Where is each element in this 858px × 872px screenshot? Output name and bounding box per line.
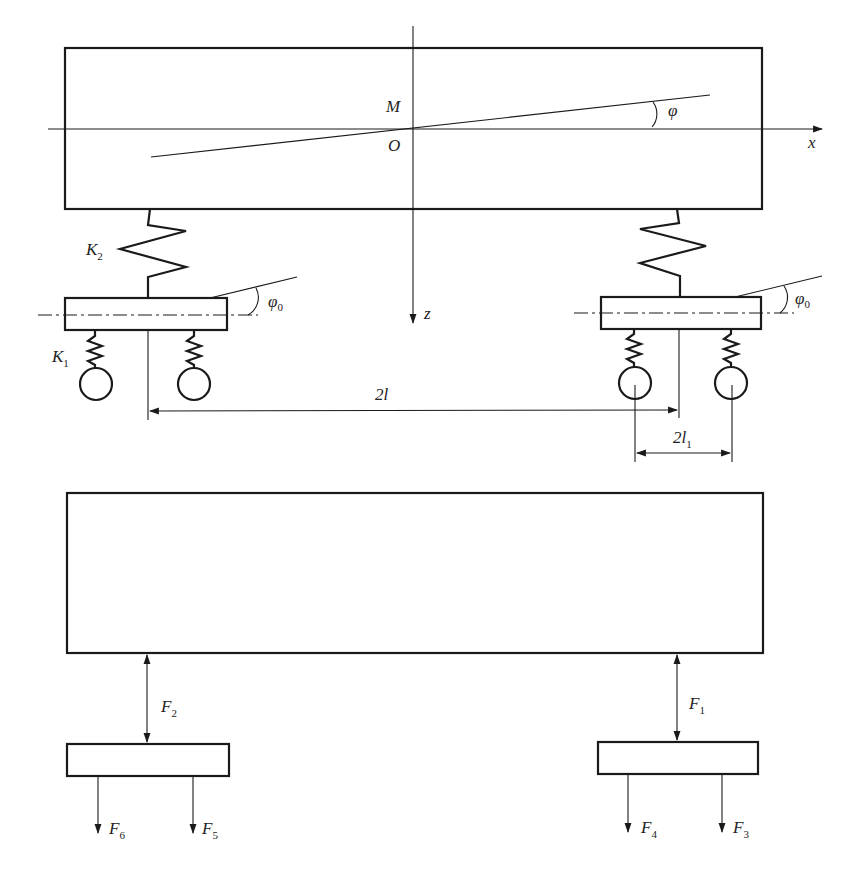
left-wheel-1 [80,368,112,400]
vehicle-vibration-model-diagram: M O φ x z K2 φ0 K1 φ0 [0,0,858,872]
label-2l1: 2l1 [673,428,692,450]
right-bogie: φ0 [574,209,822,462]
label-F1: F1 [688,694,705,716]
left-wheel-2 [178,368,210,400]
left-bogie-frame [65,298,227,330]
label-M: M [385,97,401,116]
right-primary-spring-1 [627,329,641,367]
label-phi0-left: φ0 [268,292,283,313]
dimension-2l1: 2l1 [637,428,730,453]
label-F4: F4 [640,818,657,840]
label-2l: 2l [375,385,389,404]
left-secondary-spring [120,209,186,297]
right-primary-spring-2 [724,329,738,367]
label-K1: K1 [51,347,69,369]
right-wheel-2 [715,367,747,399]
left-primary-spring-2 [187,331,201,369]
label-F2: F2 [160,697,177,719]
label-F5: F5 [201,819,218,841]
label-O: O [388,136,400,155]
left-phi0-line [210,277,297,298]
label-phi0-right: φ0 [795,289,810,310]
pitch-line [151,95,710,157]
label-K2: K2 [85,240,103,262]
phi-angle-arc [652,102,657,127]
force-right-bogie [598,742,758,774]
right-secondary-spring [640,209,706,297]
label-phi: φ [668,101,677,120]
dimension-2l: 2l [150,385,677,411]
force-car-body-rect [67,493,763,653]
left-primary-spring-1 [88,331,102,369]
force-diagram: F2 F1 F6 F5 F4 F3 [67,493,763,841]
label-F3: F3 [732,818,749,840]
left-phi0-arc [248,288,258,315]
label-x-axis: x [807,133,816,152]
label-F6: F6 [108,819,125,841]
label-z-axis: z [423,304,431,323]
right-phi0-arc [780,286,788,313]
right-phi0-line [735,276,822,297]
car-body-model: M O φ x z [48,26,822,323]
force-left-bogie [67,744,229,776]
left-bogie: K2 φ0 K1 [38,209,297,420]
